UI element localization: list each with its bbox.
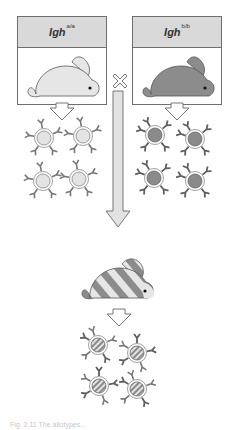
offspring-ab-genotype-label: Igha/b	[106, 236, 132, 248]
parent-bb-header: Ighb/b	[133, 17, 221, 48]
dark-b-cells	[132, 113, 222, 211]
dark-rabbit-icon	[133, 48, 221, 104]
b-cell-light	[60, 160, 98, 197]
light-b-cells	[17, 113, 107, 211]
figure-caption: Fig. 2.11 The allotypes...	[10, 421, 86, 428]
parent-bb-panel: Ighb/b	[132, 16, 222, 105]
parent-bb-genotype-label: Ighb/b	[164, 26, 190, 38]
b-cell-light	[24, 162, 62, 199]
striped-rabbit-icon	[74, 254, 166, 310]
cross-icon	[112, 73, 128, 89]
b-cell-light	[25, 119, 63, 156]
parent-aa-header: Igha/a	[18, 17, 106, 48]
light-rabbit-icon	[18, 48, 106, 104]
parent-aa-genotype-label: Igha/a	[49, 26, 75, 38]
offspring-arrow	[103, 91, 133, 229]
parent-aa-panel: Igha/a	[17, 16, 107, 105]
b-cell-light	[64, 117, 102, 154]
striped-b-cells	[72, 318, 166, 415]
